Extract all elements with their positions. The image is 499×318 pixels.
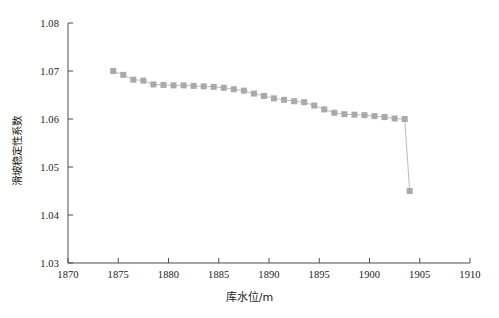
data-point-marker — [402, 116, 408, 122]
data-point-marker — [271, 95, 277, 101]
y-tick-label: 1.08 — [14, 18, 59, 29]
data-point-marker — [221, 85, 227, 91]
data-point-marker — [291, 98, 297, 104]
data-point-marker — [211, 84, 217, 90]
y-axis-title: 滑坡稳定性系数 — [9, 91, 24, 211]
x-axis-title: 库水位/m — [0, 288, 499, 304]
data-point-marker — [407, 188, 413, 194]
y-tick-label: 1.03 — [14, 258, 59, 269]
data-point-marker — [231, 86, 237, 92]
data-point-marker — [130, 77, 136, 83]
data-point-marker — [392, 116, 398, 122]
x-tick-label: 1890 — [258, 269, 279, 280]
x-tick-label: 1905 — [409, 269, 430, 280]
series-line-path — [113, 71, 409, 191]
data-point-marker — [321, 106, 327, 112]
data-point-marker — [181, 82, 187, 88]
data-point-marker — [110, 68, 116, 74]
data-point-marker — [261, 93, 267, 99]
data-point-marker — [382, 114, 388, 120]
series-markers — [110, 68, 412, 194]
x-tick-label: 1880 — [158, 269, 179, 280]
data-point-marker — [351, 112, 357, 118]
data-point-marker — [251, 91, 257, 97]
series-line — [113, 71, 409, 191]
data-point-marker — [171, 82, 177, 88]
data-point-marker — [140, 78, 146, 84]
data-point-marker — [241, 88, 247, 94]
chart-figure: 1.031.041.051.061.071.08 187018751880188… — [0, 0, 499, 318]
data-point-marker — [120, 72, 126, 78]
y-tick-marks — [68, 23, 73, 263]
axes-lines — [68, 23, 470, 263]
data-point-marker — [301, 99, 307, 105]
data-point-marker — [331, 110, 337, 116]
data-point-marker — [191, 83, 197, 89]
data-point-marker — [150, 81, 156, 87]
y-tick-label: 1.04 — [14, 210, 59, 221]
x-tick-label: 1885 — [208, 269, 229, 280]
x-tick-label: 1895 — [309, 269, 330, 280]
data-point-marker — [361, 112, 367, 118]
x-tick-label: 1870 — [57, 269, 78, 280]
data-point-marker — [311, 103, 317, 109]
data-point-marker — [281, 97, 287, 103]
data-point-marker — [160, 82, 166, 88]
x-tick-marks — [68, 258, 470, 263]
data-point-marker — [372, 113, 378, 119]
y-tick-label: 1.07 — [14, 66, 59, 77]
x-tick-label: 1900 — [359, 269, 380, 280]
x-tick-label: 1875 — [108, 269, 129, 280]
x-tick-label: 1910 — [459, 269, 480, 280]
data-point-marker — [341, 111, 347, 117]
data-point-marker — [201, 83, 207, 89]
